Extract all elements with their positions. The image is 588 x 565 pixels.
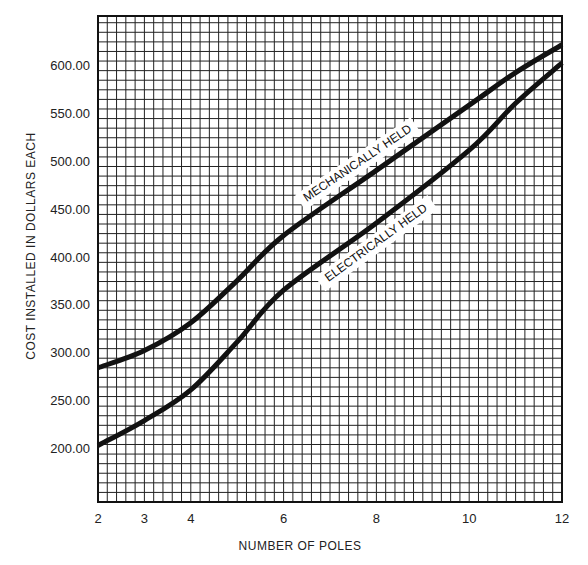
y-tick-label: 600.00 [50,58,90,73]
y-axis-tick-labels: 200.00250.00300.00350.00400.00450.00500.… [50,58,90,456]
x-tick-label: 3 [141,511,148,526]
y-tick-label: 300.00 [50,345,90,360]
x-tick-label: 12 [555,511,569,526]
y-tick-label: 350.00 [50,297,90,312]
y-axis-title: COST INSTALLED IN DOLLARS EACH [24,132,38,359]
x-tick-label: 6 [280,511,287,526]
x-tick-label: 2 [94,511,101,526]
y-tick-label: 250.00 [50,393,90,408]
x-tick-label: 10 [462,511,476,526]
x-tick-label: 8 [373,511,380,526]
x-axis-title: NUMBER OF POLES [239,539,362,553]
cost-vs-poles-chart: MECHANICALLY HELDELECTRICALLY HELD 200.0… [0,0,588,565]
y-tick-label: 200.00 [50,441,90,456]
y-tick-label: 400.00 [50,250,90,265]
x-axis-tick-labels: 234681012 [94,511,569,526]
x-tick-label: 4 [187,511,194,526]
y-tick-label: 550.00 [50,106,90,121]
y-tick-label: 500.00 [50,154,90,169]
y-tick-label: 450.00 [50,202,90,217]
